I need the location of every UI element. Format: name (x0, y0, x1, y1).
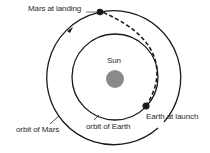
mars-orbit-leader (50, 116, 59, 124)
sun-label: Sun (107, 57, 121, 65)
orbit-of-mars-label: orbit of Mars (16, 126, 59, 134)
direction-arrow-icon (67, 27, 73, 33)
mars-planet-icon (97, 9, 104, 16)
sun-icon (106, 70, 124, 88)
earth-planet-icon (143, 103, 150, 110)
mars-at-landing-label: Mars at landing (28, 5, 81, 13)
orbit-of-earth-label: orbit of Earth (86, 123, 130, 131)
earth-at-launch-label: Earth at launch (146, 113, 198, 121)
